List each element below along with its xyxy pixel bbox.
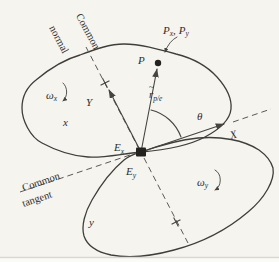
common-tangent-line-right [233, 109, 271, 122]
curvature-center-mark-x [98, 76, 112, 90]
scan-edge-margin [0, 259, 279, 262]
omega-y-rotation-arc [215, 170, 220, 190]
theta-label: θ [197, 110, 203, 122]
point-p-label: P [137, 54, 145, 66]
contact-bodies-diagram: Common normal Common tangent ωx ωy x y P… [0, 0, 279, 262]
omega-x-rotation-arc [63, 83, 67, 101]
textbook-figure-contact-kinematics: Common normal Common tangent ωx ωy x y P… [0, 0, 279, 262]
omega-y-label: ωy [197, 176, 209, 190]
body-x-label: x [62, 116, 68, 128]
e-x-label: Ex [113, 141, 125, 156]
omega-x-label: ωx [46, 89, 58, 103]
common-normal-label-line1: Common [74, 12, 102, 52]
pair-label-leader-arrow [165, 37, 177, 52]
contact-point-marker [136, 148, 146, 157]
common-normal-label-line2: normal [47, 24, 71, 55]
pair-points-label: Px,Py [162, 24, 190, 38]
curvature-center-mark-y [169, 215, 183, 229]
common-normal-line-lower [144, 158, 188, 243]
body-y-label: y [88, 216, 94, 228]
common-tangent-label-line1: Common [21, 170, 62, 193]
theta-angle-arc [151, 110, 181, 137]
y-axis-label: Y [86, 96, 94, 108]
point-p-dot [155, 60, 161, 66]
e-y-label: Ey [125, 165, 137, 180]
